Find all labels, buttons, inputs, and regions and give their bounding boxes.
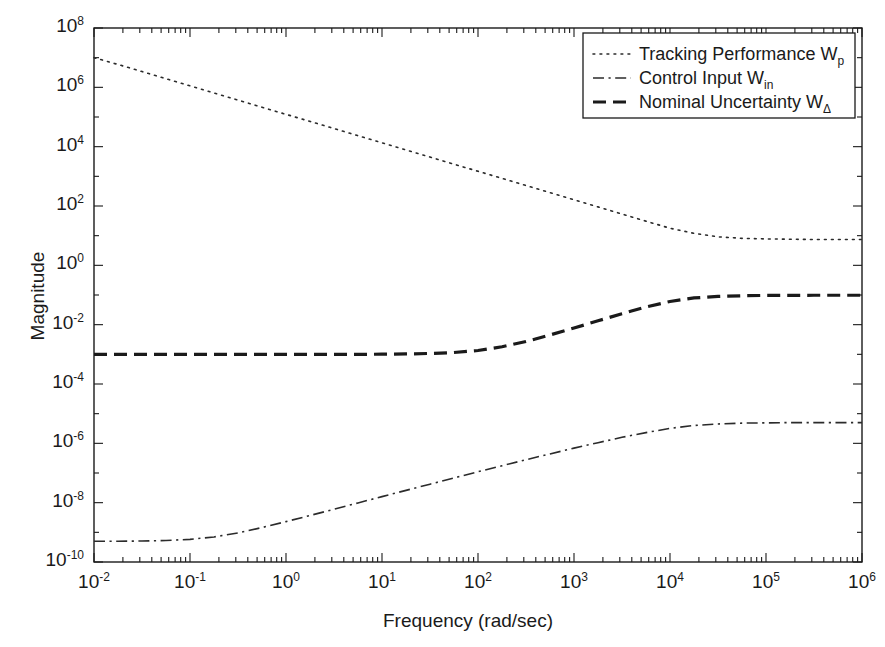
xtick-label: 103	[544, 572, 604, 591]
xtick-label: 100	[256, 572, 316, 591]
xtick-label: 10-1	[160, 572, 220, 591]
curve-1	[94, 423, 862, 542]
legend-entry-label: Control Input Win	[639, 69, 773, 87]
xtick-label: 102	[448, 572, 508, 591]
legend-entry-label: Nominal Uncertainty WΔ	[639, 93, 831, 111]
curve-2	[94, 295, 862, 354]
xtick-label: 105	[736, 572, 796, 591]
ytick-label: 10-6	[0, 431, 84, 450]
xtick-label: 106	[832, 572, 885, 591]
xtick-label: 104	[640, 572, 700, 591]
ytick-label: 10-10	[0, 550, 84, 569]
ytick-label: 10-8	[0, 491, 84, 510]
bode-magnitude-figure: 108 106 104 102 100 10-2 10-4 10-6 10-8 …	[0, 0, 885, 647]
ytick-label: 108	[0, 16, 84, 35]
ytick-label: 10-4	[0, 372, 84, 391]
xtick-label: 101	[352, 572, 412, 591]
y-axis-label: Magnitude	[27, 236, 49, 356]
ytick-label: 104	[0, 135, 84, 154]
ytick-label: 106	[0, 75, 84, 94]
data-curves	[94, 58, 862, 542]
xtick-label: 10-2	[64, 572, 124, 591]
ytick-label: 102	[0, 194, 84, 213]
x-axis-label: Frequency (rad/sec)	[383, 610, 553, 632]
legend-entry-label: Tracking Performance Wp	[639, 45, 844, 63]
